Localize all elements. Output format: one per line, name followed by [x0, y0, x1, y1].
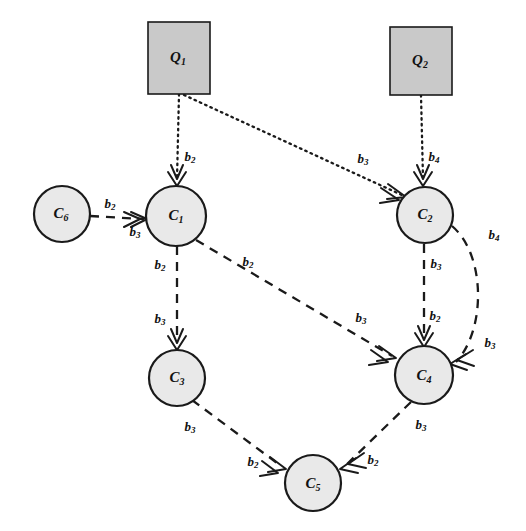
edge-label-c3-c5-end: b2	[248, 454, 260, 470]
diagram-canvas: Q1 Q2 C6 C1 C2	[0, 0, 526, 531]
edge-q1-to-c1-line	[177, 94, 179, 179]
edge-label-q2-c2: b4	[429, 149, 441, 165]
edge-label-c6-c1-upper: b2	[105, 196, 117, 212]
edge-label-q1-c2: b3	[358, 151, 370, 167]
node-c2[interactable]: C2	[397, 187, 453, 243]
node-c3[interactable]: C3	[149, 350, 205, 406]
edge-group-dashed	[90, 212, 478, 476]
edge-label-c1-c3-upper: b2	[155, 257, 167, 273]
edge-c4-to-c5-line	[345, 402, 411, 466]
edge-c6-to-c1[interactable]	[90, 212, 147, 227]
node-c6-sub: 6	[64, 212, 69, 223]
node-q1[interactable]: Q1	[148, 22, 210, 94]
node-q2-sub: 2	[422, 59, 428, 70]
edge-q1-to-c2-line	[184, 95, 404, 196]
edge-label-c2-c4-lower: b2	[430, 308, 442, 324]
edge-label-c6-c1-lower: b3	[130, 224, 142, 240]
edge-label-q1-c1: b2	[185, 149, 197, 165]
edge-c2-to-c4-curved-arrowhead2	[457, 350, 474, 366]
edge-c1-to-c4-line	[196, 240, 392, 356]
edge-label-c1-c3-lower: b3	[155, 311, 167, 327]
edge-label-c4-c5-end: b2	[368, 452, 380, 468]
edge-c1-to-c3[interactable]	[168, 246, 186, 350]
edge-c2-to-c4-curved-line	[452, 226, 478, 362]
edge-label-curve-lower: b3	[485, 335, 497, 351]
node-c2-sub: 2	[427, 213, 433, 224]
node-c5[interactable]: C5	[285, 455, 341, 511]
node-q1-base: Q	[170, 49, 181, 65]
causal-graph: Q1 Q2 C6 C1 C2	[0, 0, 526, 531]
edge-label-c4-c5-start: b3	[416, 417, 428, 433]
node-q2[interactable]: Q2	[390, 27, 452, 95]
node-c1[interactable]: C1	[146, 186, 206, 246]
node-c6[interactable]: C6	[34, 186, 90, 242]
node-c5-sub: 5	[316, 482, 321, 493]
edge-label-c1-c4-start: b2	[243, 254, 255, 270]
node-c1-sub: 1	[179, 214, 184, 225]
edge-q1-to-c2[interactable]	[184, 95, 406, 203]
edge-c1-to-c4-arrowhead2	[369, 350, 388, 365]
node-q2-base: Q	[412, 52, 423, 68]
edge-c3-to-c5-line	[192, 400, 281, 466]
edge-q1-to-c1[interactable]	[168, 94, 186, 186]
node-c4[interactable]: C4	[395, 346, 453, 404]
edge-q2-to-c2-line	[421, 95, 423, 178]
edge-label-curve-upper: b4	[489, 227, 501, 243]
edge-c1-to-c4[interactable]	[196, 240, 396, 365]
node-q1-sub: 1	[181, 56, 186, 67]
edge-label-c3-c5-start: b3	[185, 419, 197, 435]
edge-group-dotted	[168, 94, 432, 203]
edge-c3-to-c5[interactable]	[192, 400, 286, 476]
edge-c3-to-c5-arrowhead2	[260, 461, 278, 476]
edge-label-c1-c4-end: b3	[356, 310, 368, 326]
node-c4-sub: 4	[426, 374, 432, 385]
edge-q2-to-c2[interactable]	[414, 95, 432, 186]
edge-label-c2-c4-upper: b3	[431, 256, 443, 272]
node-c3-sub: 3	[179, 376, 185, 387]
edge-c2-to-c4-curved[interactable]	[450, 226, 478, 370]
